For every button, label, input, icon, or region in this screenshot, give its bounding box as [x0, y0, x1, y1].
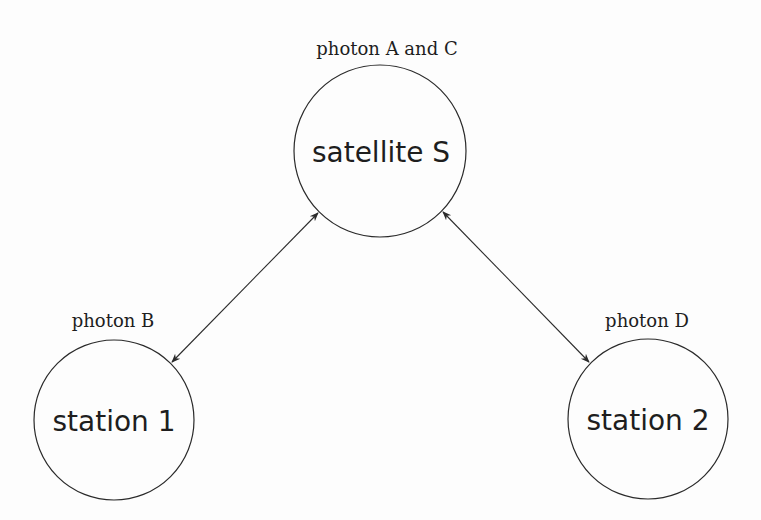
node-satellite: satellite S photon A and C: [294, 38, 466, 237]
station-2-label: station 2: [586, 404, 709, 437]
satellite-photon-annotation: photon A and C: [316, 38, 457, 59]
entanglement-distribution-diagram: satellite S photon A and C station 1 pho…: [0, 0, 761, 520]
edge-satellite-station2: [443, 212, 589, 362]
satellite-label: satellite S: [312, 136, 450, 169]
station-1-photon-annotation: photon B: [72, 310, 155, 331]
node-station-2: station 2 photon D: [568, 310, 728, 499]
station-2-photon-annotation: photon D: [605, 310, 689, 331]
station-1-label: station 1: [52, 405, 175, 438]
edge-satellite-station1: [172, 213, 318, 362]
node-station-1: station 1 photon B: [34, 310, 194, 500]
